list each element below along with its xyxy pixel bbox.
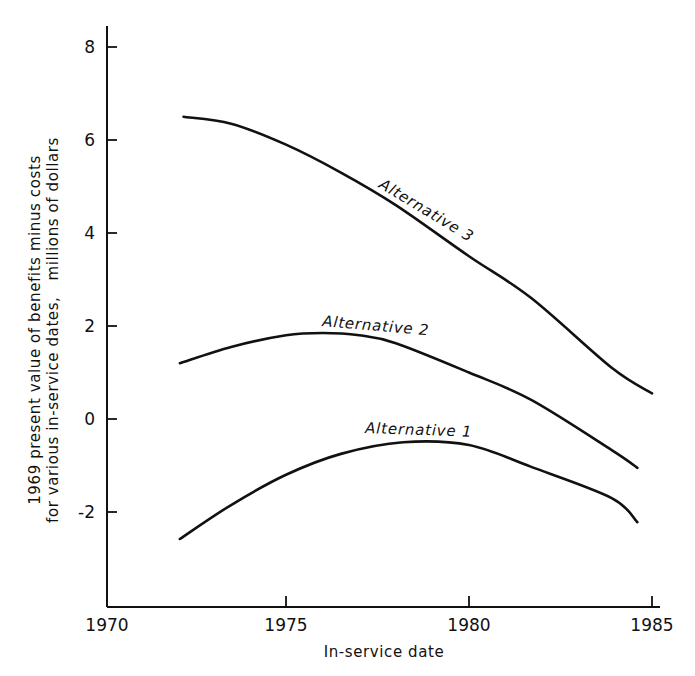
series-alternative-2 [180,333,638,468]
series-label-alternative-2: Alternative 2 [321,312,430,339]
y-tick-label: 6 [84,130,95,150]
y-tick-label: 0 [84,409,95,429]
series-label-alternative-3: Alternative 3 [375,174,477,245]
x-tick-label: 1970 [85,615,128,635]
y-axis-ticks: 86420-2 [78,37,117,522]
x-axis-ticks: 1970197519801985 [85,596,673,635]
y-axis-title-line-1: 1969 present value of benefits minus cos… [26,155,44,505]
y-tick-label: 2 [84,316,95,336]
series-alternative-1 [180,441,638,539]
line-chart: 86420-2 1970197519801985 Alternative 3Al… [0,0,695,676]
x-tick-label: 1985 [630,615,673,635]
y-axis-title-line-2: for various in-service dates, millions o… [44,137,62,523]
y-tick-label: 8 [84,37,95,57]
y-tick-label: -2 [78,502,95,522]
x-axis-title: In-service date [324,643,445,661]
y-axis-title: 1969 present value of benefits minus cos… [26,137,62,523]
series-label-alternative-1: Alternative 1 [364,419,473,441]
y-tick-label: 4 [84,223,95,243]
x-tick-label: 1975 [264,615,307,635]
series-labels: Alternative 3Alternative 2Alternative 1 [321,174,478,440]
x-tick-label: 1980 [447,615,490,635]
